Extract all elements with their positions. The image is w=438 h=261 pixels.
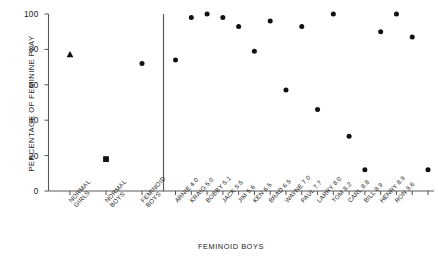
y-tick-label: 100 xyxy=(15,9,39,19)
data-point-circle xyxy=(426,167,431,172)
y-tick-marks xyxy=(45,14,49,191)
data-point-circle xyxy=(252,49,257,54)
data-point-circle xyxy=(268,19,273,24)
data-point-circle xyxy=(410,35,415,40)
y-tick-label: 80 xyxy=(15,44,39,54)
data-point-circle xyxy=(205,12,210,17)
data-point-circle xyxy=(283,88,288,93)
data-point-circle xyxy=(220,15,225,20)
data-point-circle xyxy=(299,24,304,29)
data-point-circle xyxy=(331,12,336,17)
y-tick-label: 60 xyxy=(15,80,39,90)
data-point-circle xyxy=(362,167,367,172)
data-point-circle xyxy=(315,107,320,112)
data-point-circle xyxy=(140,61,145,66)
data-point-circle xyxy=(347,134,352,139)
y-tick-label: 0 xyxy=(15,186,39,196)
data-point-circle xyxy=(394,12,399,17)
plot-area: PERCENTAGE OF FEMININE PLAY 020406080100… xyxy=(0,0,438,261)
data-point-circle xyxy=(236,24,241,29)
plot-svg xyxy=(0,0,438,261)
y-tick-label: 40 xyxy=(15,115,39,125)
x-axis-title: FEMINOID BOYS xyxy=(198,242,264,251)
data-point-triangle xyxy=(67,51,74,57)
axes-group xyxy=(49,14,435,191)
y-tick-label: 20 xyxy=(15,151,39,161)
figure-scatter-feminine-play: PERCENTAGE OF FEMININE PLAY 020406080100… xyxy=(0,0,438,261)
data-markers-group xyxy=(67,12,431,173)
data-point-circle xyxy=(189,15,194,20)
data-point-circle xyxy=(173,58,178,63)
data-point-circle xyxy=(378,29,383,34)
data-point-square xyxy=(103,156,109,162)
